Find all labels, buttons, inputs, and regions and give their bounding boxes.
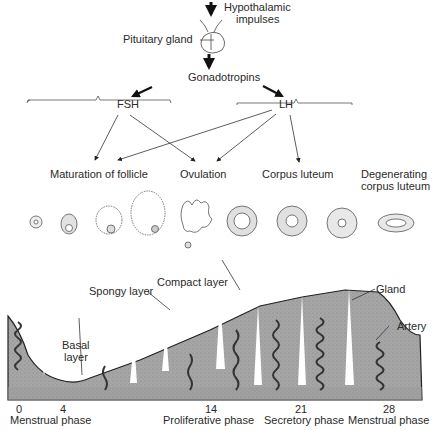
basal-layer-label: Basal <box>62 339 90 351</box>
pituitary-gland-icon <box>200 20 225 53</box>
diagram-canvas <box>0 0 436 430</box>
hormone-effect-arrows <box>95 110 299 162</box>
pituitary-label: Pituitary gland <box>123 33 193 45</box>
basal-layer-label-2: layer <box>64 351 88 363</box>
artery-label: Artery <box>397 320 426 332</box>
ovulation-label: Ovulation <box>180 168 226 180</box>
arrow-to-fsh <box>133 87 152 96</box>
phase-secretory: Secretory phase <box>264 414 344 426</box>
corpus-luteum-label: Corpus luteum <box>262 168 334 180</box>
stage-brackets <box>27 96 352 105</box>
arrow-to-lh <box>263 86 282 96</box>
hypothalamic-label: Hypothalamic <box>224 1 291 13</box>
lh-label: LH <box>279 98 293 110</box>
phase-menstrual-2: Menstrual phase <box>348 414 429 426</box>
fsh-label: FSH <box>117 98 139 110</box>
hypothalamic-label-2: impulses <box>236 13 279 25</box>
degenerating-label-2: corpus luteum <box>361 180 430 192</box>
phase-menstrual-1: Menstrual phase <box>10 414 91 426</box>
compact-layer-label: Compact layer <box>157 276 228 288</box>
ovarian-follicles <box>30 191 414 248</box>
degenerating-label: Degenerating <box>361 168 427 180</box>
gland-label: Gland <box>376 283 405 295</box>
spongy-layer-label: Spongy layer <box>89 285 153 297</box>
gonadotropins-label: Gonadotropins <box>188 71 260 83</box>
maturation-label: Maturation of follicle <box>50 168 148 180</box>
phase-proliferative: Proliferative phase <box>163 414 254 426</box>
